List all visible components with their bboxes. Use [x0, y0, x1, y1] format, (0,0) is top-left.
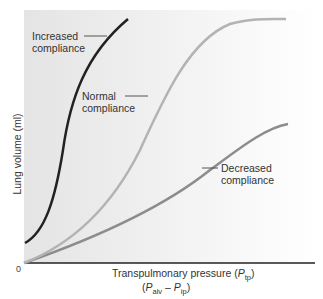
increased-compliance-label: Increased compliance	[32, 30, 85, 54]
decreased-compliance-label: Decreased compliance	[221, 162, 274, 186]
label-line: compliance	[32, 42, 85, 54]
normal-compliance-label: Normal compliance	[82, 90, 135, 114]
formula-text: –	[162, 281, 174, 293]
origin-label: 0	[16, 264, 21, 274]
x-label-text: Transpulmonary pressure (	[112, 267, 238, 279]
label-line: Normal	[82, 90, 135, 102]
label-line: Increased	[32, 30, 85, 42]
y-axis-label: Lung volume (ml)	[11, 99, 23, 209]
label-line: Decreased	[221, 162, 274, 174]
formula-subscript: alv	[153, 287, 163, 296]
x-label-text: )	[251, 267, 255, 279]
x-label-symbol: P	[238, 267, 245, 279]
label-line: compliance	[82, 102, 135, 114]
formula-symbol: P	[146, 281, 153, 293]
x-axis-formula: (Palv – Pip)	[142, 281, 190, 296]
label-line: compliance	[221, 174, 274, 186]
x-axis-label: Transpulmonary pressure (Ptp)	[112, 267, 254, 282]
formula-symbol: P	[174, 281, 181, 293]
formula-text: )	[187, 281, 191, 293]
